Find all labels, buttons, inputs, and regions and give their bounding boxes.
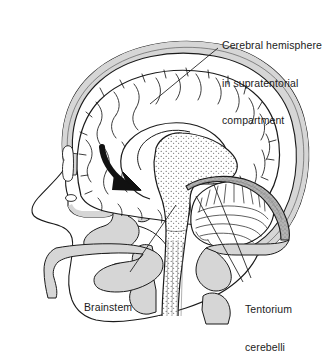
label-cerebral-line3: compartment bbox=[222, 114, 322, 127]
label-cerebral-line2: in supratentorial bbox=[222, 77, 322, 90]
label-tentorium-line1: Tentorium bbox=[245, 303, 292, 316]
label-brainstem-line1: Brainstem bbox=[84, 301, 132, 314]
occipital-base-bone bbox=[196, 248, 231, 324]
label-brainstem: Brainstem bbox=[84, 276, 132, 339]
label-tentorium-cerebelli: Tentorium cerebelli bbox=[245, 278, 292, 355]
label-tentorium-line2: cerebelli bbox=[245, 341, 292, 354]
label-cerebral-hemisphere: Cerebral hemisphere in supratentorial co… bbox=[222, 14, 322, 152]
label-cerebral-line1: Cerebral hemisphere bbox=[222, 39, 322, 52]
